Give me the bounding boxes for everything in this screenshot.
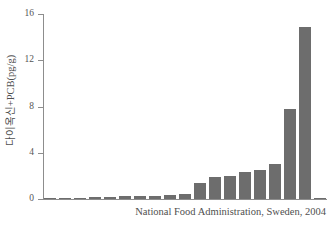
bar (209, 177, 221, 199)
bar (239, 172, 251, 199)
bar (194, 183, 206, 199)
source-caption: National Food Administration, Sweden, 20… (0, 206, 326, 217)
bar (119, 196, 131, 199)
chart-figure: 다이옥신+PCB(pg/g) 1612840 National Food Adm… (0, 0, 330, 232)
bar (74, 198, 86, 199)
bar (314, 198, 326, 199)
bar (224, 176, 236, 199)
y-tick-label: 4 (12, 148, 34, 158)
bar (44, 198, 56, 199)
y-tick-label: 16 (12, 9, 34, 19)
bar-series (43, 14, 327, 199)
x-axis-line (43, 199, 327, 200)
y-tick-label: 8 (12, 102, 34, 112)
bar (59, 198, 71, 199)
bar (104, 197, 116, 199)
bar (149, 196, 161, 199)
bar (179, 194, 191, 199)
bar (164, 195, 176, 199)
y-axis-label: 다이옥신+PCB(pg/g) (0, 0, 20, 200)
y-tick-mark (38, 199, 43, 200)
bar (89, 197, 101, 199)
y-axis-label-text: 다이옥신+PCB(pg/g) (3, 54, 18, 145)
y-tick-label: 0 (12, 194, 34, 204)
bar (134, 196, 146, 199)
bar (269, 164, 281, 199)
bar (299, 27, 311, 199)
bar (254, 170, 266, 199)
bar (284, 109, 296, 199)
y-tick-label: 12 (12, 55, 34, 65)
